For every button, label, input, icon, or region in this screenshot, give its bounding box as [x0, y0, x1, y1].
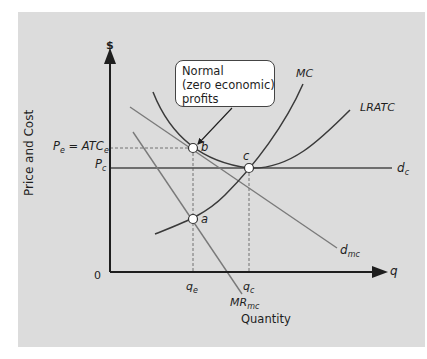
- lratc-label: LRATC: [360, 102, 395, 113]
- point-c-label: c: [243, 151, 249, 163]
- callout-arrow: [198, 108, 232, 144]
- callout-line: Normal: [182, 64, 274, 78]
- y-axis-symbol: $: [106, 40, 114, 51]
- point-c: [245, 164, 254, 173]
- x-axis-title: Quantity: [241, 314, 291, 326]
- qc-label: qc: [243, 281, 254, 292]
- x-axis-symbol: q: [390, 265, 398, 277]
- economics-diagram: [0, 0, 427, 359]
- mrmc-line: [133, 132, 242, 294]
- origin-label: 0: [94, 270, 101, 281]
- dmc-label: dmc: [340, 244, 360, 256]
- mc-label: MC: [296, 68, 313, 79]
- point-a: [189, 215, 198, 224]
- point-b-label: b: [201, 142, 208, 154]
- callout-line: profits: [182, 92, 274, 106]
- dc-label: dc: [397, 162, 409, 174]
- mrmc-label: MRmc: [230, 297, 259, 308]
- dashed-guides: [110, 148, 249, 272]
- dmc-line: [130, 107, 337, 248]
- pe-atce-label: Pe = ATCe: [53, 141, 109, 153]
- point-b: [189, 144, 198, 153]
- y-axis-title: Price and Cost: [22, 110, 36, 196]
- point-a-label: a: [201, 214, 208, 226]
- qe-label: qe: [186, 281, 198, 292]
- callout-line: (zero economic): [182, 78, 274, 92]
- normal-profits-callout: Normal (zero economic) profits: [175, 60, 275, 107]
- pc-label: Pc: [95, 159, 106, 171]
